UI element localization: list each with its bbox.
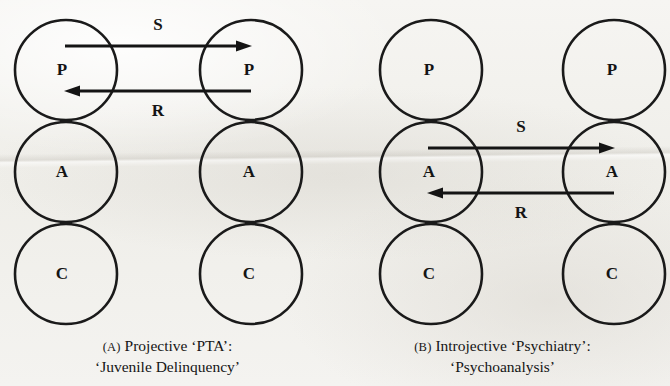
caption-a-line-2: ‘Juvenile Delinquency’ xyxy=(0,357,335,376)
figure-page: P A C P A C S R P xyxy=(0,0,670,386)
panel-tag-b: (B) xyxy=(414,340,431,354)
node-label-a-left-a: A xyxy=(56,162,69,181)
caption-a-line-1: Projective ‘PTA’: xyxy=(125,337,233,354)
arrow-label-b-stimulus: S xyxy=(516,117,525,136)
arrow-a-response: R xyxy=(64,86,251,120)
node-label-b-left-a: A xyxy=(423,162,436,181)
arrow-b-stimulus: S xyxy=(428,117,615,154)
node-label-a-right-a: A xyxy=(243,162,256,181)
arrow-b-stimulus-head xyxy=(599,143,615,154)
arrow-label-b-response: R xyxy=(515,203,528,222)
caption-panel-a: (A) Projective ‘PTA’: ‘Juvenile Delinque… xyxy=(0,336,335,376)
arrow-a-stimulus: S xyxy=(65,15,252,52)
caption-b-line-1: Introjective ‘Psychiatry’: xyxy=(435,337,590,354)
panel-tag-a: (A) xyxy=(103,340,121,354)
arrow-label-a-response: R xyxy=(152,101,165,120)
node-label-a-left-c: C xyxy=(56,264,68,283)
arrow-a-response-head xyxy=(64,86,80,97)
panel-b-column-right: P A C xyxy=(563,20,665,324)
caption-panel-b: (B) Introjective ‘Psychiatry’: ‘Psychoan… xyxy=(335,336,670,376)
node-label-b-right-a: A xyxy=(606,162,619,181)
panel-b-column-left: P A C xyxy=(380,20,482,324)
panel-a-column-right: P A C xyxy=(200,20,302,324)
node-label-b-left-c: C xyxy=(423,264,435,283)
node-label-a-right-c: C xyxy=(243,264,255,283)
node-label-b-right-c: C xyxy=(606,264,618,283)
caption-b-line-2: ‘Psychoanalysis’ xyxy=(335,357,670,376)
panel-a-column-left: P A C xyxy=(15,20,117,324)
arrow-b-response-head xyxy=(427,188,443,199)
node-label-a-right-p: P xyxy=(244,60,254,79)
arrow-a-stimulus-head xyxy=(236,41,252,52)
node-label-b-right-p: P xyxy=(607,60,617,79)
node-label-a-left-p: P xyxy=(57,60,67,79)
node-label-b-left-p: P xyxy=(424,60,434,79)
arrow-label-a-stimulus: S xyxy=(153,15,162,34)
figure-canvas: P A C P A C S R P xyxy=(0,0,670,386)
